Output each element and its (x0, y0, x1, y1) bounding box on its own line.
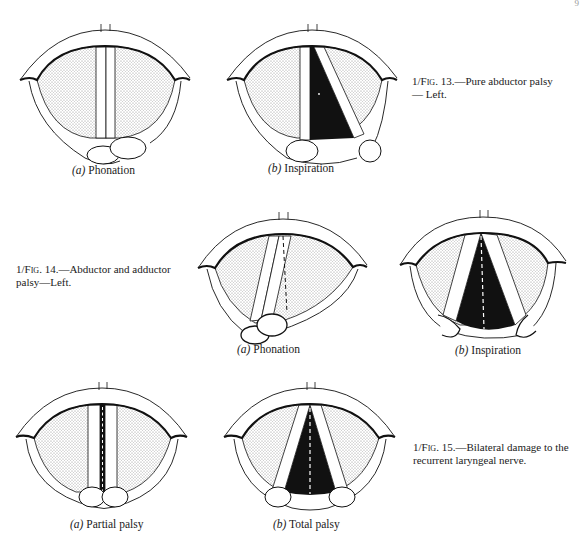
panel-label: Phonation (88, 164, 135, 176)
caption-prefix: 1/ (412, 75, 421, 87)
fig15-panel-b-label: (b) Total palsy (273, 518, 340, 530)
panel-label: Inspiration (471, 344, 521, 356)
fig13-panel-b-diagram (222, 18, 402, 168)
caption-prefix: 1/ (413, 441, 422, 453)
panel-label: Phonation (253, 343, 300, 355)
caption-text: —Abductor and adductor palsy—Left. (16, 263, 171, 288)
fig14-panel-a-diagram (195, 205, 370, 345)
caption-number: 13. (441, 75, 455, 87)
panel-label: Inspiration (284, 162, 334, 174)
panel-letter: (a) (70, 518, 83, 530)
caption-number: 15. (442, 441, 456, 453)
caption-prefix: 1/ (16, 263, 25, 275)
panel-letter: (a) (237, 343, 250, 355)
panel-letter: (b) (268, 162, 281, 174)
caption-number: 14. (45, 263, 59, 275)
panel-label: Total palsy (289, 518, 340, 530)
fig15-panel-b-diagram (222, 380, 397, 520)
fig14-caption: 1/Fig. 14.—Abductor and adductor palsy—L… (16, 263, 176, 288)
page-number: 9 (575, 0, 580, 8)
fig13-panel-b-label: (b) Inspiration (268, 162, 334, 174)
panel-letter: (a) (72, 164, 85, 176)
fig14-panel-a-label: (a) Phonation (237, 343, 300, 355)
fig13-caption: 1/Fig. 13.—Pure abductor palsy— Left. (412, 75, 562, 100)
fig15-caption: 1/Fig. 15.—Bilateral damage to the recur… (413, 441, 578, 466)
panel-letter: (b) (273, 518, 286, 530)
fig15-panel-a-label: (a) Partial palsy (70, 518, 143, 530)
caption-text: —Bilateral damage to the recurrent laryn… (413, 441, 569, 466)
fig15-panel-a-diagram (14, 380, 189, 520)
panel-label: Partial palsy (86, 518, 143, 530)
caption-fig-word: Fig (421, 75, 436, 87)
fig14-panel-b-label: (b) Inspiration (455, 344, 521, 356)
fig13-panel-a-label: (a) Phonation (72, 164, 135, 176)
caption-fig-word: Fig (422, 441, 437, 453)
caption-fig-word: Fig (25, 263, 40, 275)
fig14-panel-b-diagram (398, 203, 568, 348)
panel-letter: (b) (455, 344, 468, 356)
fig13-panel-a-diagram (15, 18, 195, 168)
